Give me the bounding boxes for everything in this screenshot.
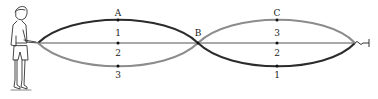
standing-wave-diagram: A 1 2 3 B C 3 2 1: [0, 0, 378, 99]
antinode-C-points: [276, 19, 279, 68]
node-B-point: [197, 42, 200, 45]
hook-icon: [355, 39, 369, 47]
label-A: A: [114, 8, 122, 18]
label-A-2: 2: [115, 48, 121, 58]
person-figure: [11, 6, 38, 90]
label-A-1: 1: [115, 28, 121, 38]
label-B: B: [195, 28, 202, 38]
label-C-3: 3: [274, 28, 280, 38]
label-C: C: [274, 8, 281, 18]
label-C-1: 1: [274, 70, 280, 80]
antinode-A-points: [117, 19, 120, 68]
label-A-3: 3: [115, 70, 121, 80]
label-C-2: 2: [274, 48, 280, 58]
